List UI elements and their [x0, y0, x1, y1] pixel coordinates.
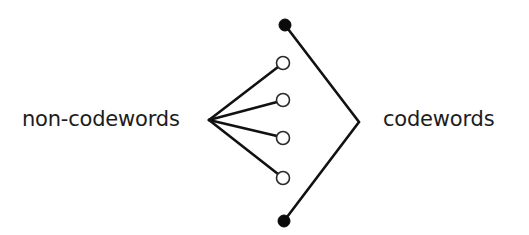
codewords-bracket-line: [284, 25, 359, 221]
non-codeword-node-2: [277, 94, 290, 107]
codeword-diagram: [0, 0, 529, 235]
non-codeword-node-4: [277, 172, 290, 185]
codeword-node-bottom: [278, 215, 290, 227]
non-codeword-node-1: [277, 57, 290, 70]
codewords-bracket: [284, 25, 359, 221]
codeword-node-top: [279, 19, 291, 31]
non-codewords-fan: [209, 67, 278, 174]
non-codeword-node-3: [277, 132, 290, 145]
nodes-group: [277, 19, 292, 227]
